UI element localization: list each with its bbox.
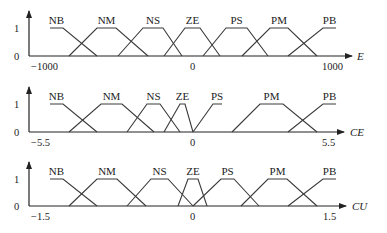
panel-e: 1 0 −1000 0 1000 E NBNMNSZEPSPMPB	[14, 11, 364, 72]
set-label-ps: PS	[230, 14, 242, 26]
panel-cu: 1 0 −1.5 0 1.5 CU NBNMNSZEPSPMPB	[14, 162, 368, 222]
set-label-nm: NM	[98, 14, 116, 26]
tick-zero: 0	[190, 137, 195, 148]
set-label-pm: PM	[270, 165, 286, 177]
set-label-ps: PS	[211, 90, 223, 102]
set-label-pm: PM	[264, 90, 280, 102]
set-labels: NBNMNSZEPSPMPB	[49, 165, 336, 177]
set-label-nb: NB	[49, 14, 64, 26]
set-label-pb: PB	[323, 165, 336, 177]
mf-ps	[193, 104, 222, 132]
tick-min: −5.5	[31, 137, 50, 148]
set-label-pb: PB	[323, 14, 336, 26]
set-labels: NBNMNSZEPSPMPB	[49, 90, 336, 102]
set-label-ns: NS	[152, 165, 166, 177]
set-labels: NBNMNSZEPSPMPB	[49, 14, 336, 26]
mf-ps	[203, 28, 268, 56]
mf-ze	[164, 104, 193, 132]
set-label-nm: NM	[98, 165, 116, 177]
panel-ce: 1 0 −5.5 0 5.5 CE NBNMNSZEPSPMPB	[14, 87, 364, 148]
set-label-ns: NS	[146, 90, 160, 102]
tick-one: 1	[14, 99, 19, 110]
set-label-nb: NB	[49, 165, 64, 177]
membership-functions	[50, 28, 336, 56]
mf-pm	[232, 104, 317, 132]
tick-zero: 0	[190, 61, 195, 72]
set-label-ze: ZE	[186, 165, 200, 177]
mf-nm	[69, 104, 154, 132]
axis-label: CU	[352, 200, 368, 212]
set-label-ze: ZE	[186, 14, 200, 26]
axis-label: E	[356, 50, 364, 62]
set-label-nb: NB	[49, 90, 64, 102]
membership-functions	[50, 179, 336, 206]
tick-zero: 0	[190, 211, 195, 222]
tick-min: −1000	[31, 61, 58, 72]
axis-label: CE	[350, 126, 364, 138]
set-label-ns: NS	[146, 14, 160, 26]
tick-one: 1	[14, 23, 19, 34]
tick-min: −1.5	[31, 211, 50, 222]
tick-origin: 0	[14, 201, 19, 212]
tick-max: 5.5	[322, 137, 335, 148]
set-label-ze: ZE	[176, 90, 190, 102]
set-label-nm: NM	[103, 90, 121, 102]
set-label-ps: PS	[221, 165, 233, 177]
tick-origin: 0	[14, 51, 19, 62]
tick-max: 1.5	[323, 211, 336, 222]
set-label-pm: PM	[271, 14, 287, 26]
membership-functions	[50, 104, 336, 132]
set-label-pb: PB	[323, 90, 336, 102]
tick-max: 1000	[322, 61, 343, 72]
tick-origin: 0	[14, 127, 19, 138]
fuzzy-membership-diagram: 1 0 −1000 0 1000 E NBNMNSZEPSPMPB 1 0 −5…	[0, 0, 387, 233]
tick-one: 1	[14, 174, 19, 185]
mf-ze	[178, 179, 207, 206]
mf-ns	[118, 28, 182, 56]
